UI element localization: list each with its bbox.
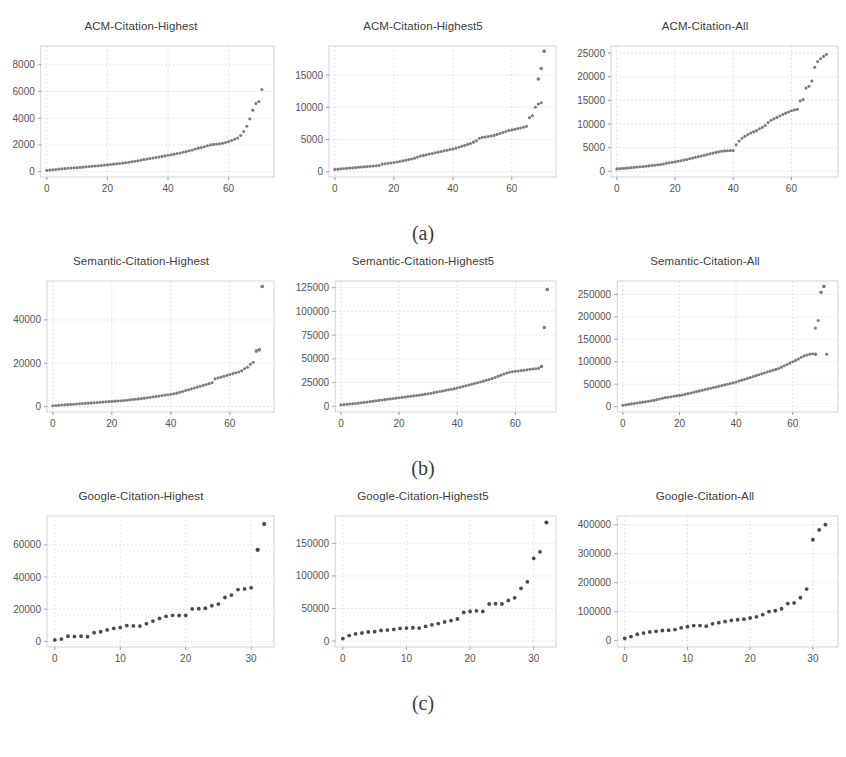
y-tick-label: 0 [317,166,323,177]
data-point [369,165,372,168]
data-point [708,152,711,155]
plot-area: 0500001000001500000102030 [282,508,564,673]
data-point [405,626,409,630]
data-point [700,154,703,157]
data-point [432,391,435,394]
y-tick-label: 150000 [578,334,612,345]
data-point [57,168,60,171]
data-point [169,153,172,156]
data-point [151,619,155,623]
data-point [428,153,431,156]
data-point [86,635,90,639]
data-point [709,387,712,390]
data-point [57,404,60,407]
data-point [636,166,639,169]
data-point [454,147,457,150]
data-point [817,319,820,322]
data-point [711,152,714,155]
chart-title: Semantic-Citation-All [564,255,846,267]
data-point-group [51,285,263,407]
data-point [54,168,57,171]
data-point [805,353,808,356]
data-point [706,387,709,390]
data-point [675,394,678,397]
data-point [491,377,494,380]
data-point [67,167,70,170]
data-point [395,160,398,163]
data-point [146,396,149,399]
x-tick-label: 20 [102,183,114,194]
y-tick-label: 0 [35,401,41,412]
data-point [504,130,507,133]
data-point [218,142,221,145]
data-point [686,625,690,629]
data-point [479,380,482,383]
y-tick-label: 100000 [296,306,330,317]
data-point [188,149,191,152]
data-point [222,375,225,378]
chart-panel-google-citation-highest5: Google-Citation-Highest5 050000100000150… [282,470,564,685]
data-point [644,165,647,168]
y-tick-label: 0 [606,635,612,646]
y-tick-label: 40000 [13,314,41,325]
data-point [351,166,354,169]
plot-area: 020004000600080000204060 [0,38,282,203]
data-point [749,131,752,134]
data-point [449,619,453,623]
data-point [206,144,209,147]
data-point [223,596,227,600]
data-point [732,149,735,152]
data-point [398,396,401,399]
data-point [444,389,447,392]
data-point [790,109,793,112]
plot-frame [611,46,838,177]
scatter-plot-svg: 0500010000150000204060 [282,38,564,203]
data-point [796,108,799,111]
data-point [662,162,665,165]
data-point [777,367,780,370]
data-point [130,160,133,163]
y-tick-label: 6000 [13,86,36,97]
data-point [438,390,441,393]
data-point [234,371,237,374]
outlier-data-point [542,49,546,53]
data-point [653,164,656,167]
data-point [669,395,672,398]
data-point [537,367,540,370]
chart-panel-google-citation-highest: Google-Citation-Highest 0200004000060000… [0,470,282,685]
x-tick-label: 0 [614,183,620,194]
data-point [157,394,160,397]
scatter-plot-svg: 02000040000600000102030 [0,508,282,673]
data-point [516,127,519,130]
data-point [173,153,176,156]
x-tick-label: 40 [728,183,740,194]
data-point [392,397,395,400]
data-point [91,165,94,168]
x-tick-label: 60 [223,183,235,194]
data-point-group [623,523,828,640]
plot-frame [335,281,556,412]
data-point [154,156,157,159]
data-point [792,601,796,605]
data-point [816,60,819,63]
data-point [116,399,119,402]
outlier-data-point [546,288,550,292]
data-point [366,630,370,634]
data-point [246,366,249,369]
data-point [245,125,248,128]
data-point [145,622,149,626]
plot-frame [335,516,556,647]
data-point [435,391,438,394]
data-point [339,403,342,406]
data-point [360,631,364,635]
data-point [230,593,234,597]
data-point [824,523,828,527]
x-tick-label: 30 [246,653,258,664]
data-point [179,151,182,154]
data-point [109,163,112,166]
data-point [386,162,389,165]
data-point [773,609,777,613]
data-point [723,383,726,386]
y-tick-label: 15000 [577,95,605,106]
plot-frame [617,516,838,647]
